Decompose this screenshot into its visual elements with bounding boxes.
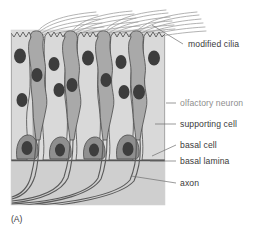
nucleus — [22, 141, 33, 155]
nucleus — [32, 68, 43, 82]
nucleus — [14, 49, 26, 64]
label-modified-cilia: modified cilia — [188, 39, 239, 49]
nucleus — [119, 85, 130, 99]
label-olfactory-neuron: olfactory neuron — [180, 98, 243, 108]
nucleus — [133, 85, 145, 100]
nucleus — [55, 144, 65, 157]
nucleus — [116, 55, 127, 69]
nucleus — [123, 142, 134, 156]
label-basal-lamina: basal lamina — [180, 156, 230, 166]
nucleus — [148, 51, 160, 66]
labels-group: modified cilia olfactory neuron supporti… — [180, 39, 243, 188]
nucleus — [54, 83, 65, 97]
nucleus — [49, 57, 60, 71]
nucleus — [17, 93, 28, 107]
label-basal-cell: basal cell — [180, 140, 217, 150]
label-supporting-cell: supporting cell — [180, 119, 237, 129]
nucleus — [101, 73, 112, 87]
nucleus — [67, 78, 78, 92]
figure-canvas: modified cilia olfactory neuron supporti… — [0, 0, 259, 228]
nucleus — [82, 51, 94, 66]
epithelium-contents — [11, 31, 165, 209]
nucleus — [89, 144, 99, 157]
label-axon: axon — [180, 178, 199, 188]
figure-caption: (A) — [11, 214, 23, 224]
olfactory-epithelium-figure: modified cilia olfactory neuron supporti… — [0, 0, 259, 228]
